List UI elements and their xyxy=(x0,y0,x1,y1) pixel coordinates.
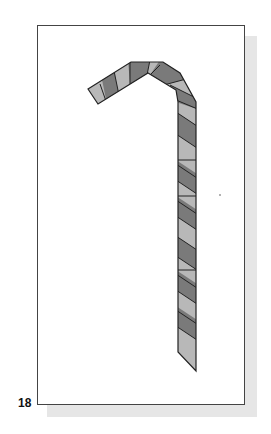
page-number: 18 xyxy=(18,396,31,410)
speck xyxy=(219,194,221,196)
candy-cane-illustration xyxy=(0,0,271,434)
